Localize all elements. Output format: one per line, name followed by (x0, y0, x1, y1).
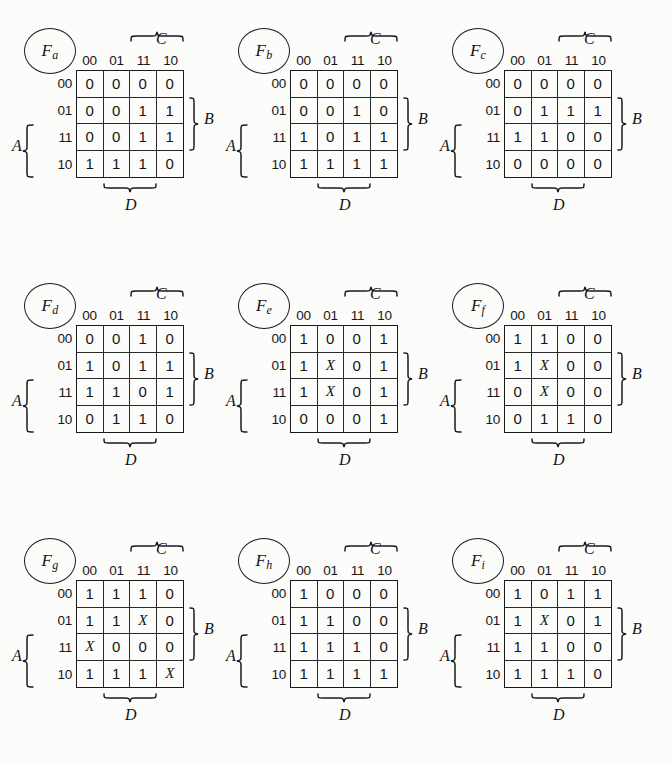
kmap-cell[interactable]: 0 (532, 71, 559, 98)
kmap-cell[interactable]: 0 (505, 98, 532, 125)
kmap-cell[interactable]: 0 (344, 581, 371, 608)
kmap-cell[interactable]: 0 (344, 406, 371, 433)
kmap-cell[interactable]: 0 (585, 151, 612, 178)
kmap-cell[interactable]: 1 (558, 581, 585, 608)
kmap-cell[interactable]: 1 (505, 661, 532, 688)
kmap-cell[interactable]: 1 (104, 581, 131, 608)
kmap-cell[interactable]: 0 (344, 608, 371, 635)
kmap-cell[interactable]: 0 (505, 379, 532, 406)
kmap-cell[interactable]: 1 (505, 581, 532, 608)
kmap-cell[interactable]: 0 (585, 406, 612, 433)
kmap-cell[interactable]: 0 (77, 124, 104, 151)
kmap-cell[interactable]: 1 (104, 151, 131, 178)
kmap-cell[interactable]: X (157, 661, 184, 688)
kmap-cell[interactable]: X (77, 634, 104, 661)
kmap-cell[interactable]: 1 (291, 634, 318, 661)
kmap-cell[interactable]: 0 (104, 71, 131, 98)
kmap-cell[interactable]: 0 (104, 326, 131, 353)
kmap-cell[interactable]: 0 (157, 608, 184, 635)
kmap-cell[interactable]: X (318, 379, 345, 406)
kmap-cell[interactable]: 1 (371, 379, 398, 406)
kmap-cell[interactable]: 1 (77, 661, 104, 688)
kmap-cell[interactable]: 0 (157, 406, 184, 433)
kmap-cell[interactable]: 0 (104, 634, 131, 661)
kmap-cell[interactable]: 0 (318, 326, 345, 353)
kmap-cell[interactable]: 1 (104, 406, 131, 433)
kmap-cell[interactable]: 1 (130, 326, 157, 353)
kmap-cell[interactable]: 1 (505, 608, 532, 635)
kmap-cell[interactable]: 1 (291, 379, 318, 406)
kmap-cell[interactable]: 1 (104, 379, 131, 406)
kmap-cell[interactable]: 1 (130, 151, 157, 178)
kmap-cell[interactable]: 0 (104, 353, 131, 380)
kmap-cell[interactable]: 1 (291, 581, 318, 608)
kmap-cell[interactable]: 1 (532, 406, 559, 433)
kmap-cell[interactable]: 1 (77, 353, 104, 380)
kmap-cell[interactable]: 1 (157, 353, 184, 380)
kmap-cell[interactable]: 0 (344, 379, 371, 406)
kmap-cell[interactable]: 1 (77, 151, 104, 178)
kmap-cell[interactable]: X (130, 608, 157, 635)
kmap-cell[interactable]: 0 (77, 326, 104, 353)
kmap-cell[interactable]: 1 (558, 98, 585, 125)
kmap-cell[interactable]: 0 (371, 71, 398, 98)
kmap-cell[interactable]: 1 (318, 661, 345, 688)
kmap-cell[interactable]: 0 (558, 353, 585, 380)
kmap-cell[interactable]: 1 (130, 98, 157, 125)
kmap-cell[interactable]: 1 (344, 661, 371, 688)
kmap-cell[interactable]: 0 (344, 326, 371, 353)
kmap-cell[interactable]: 1 (104, 608, 131, 635)
kmap-cell[interactable]: X (532, 353, 559, 380)
kmap-cell[interactable]: 0 (558, 326, 585, 353)
kmap-cell[interactable]: 1 (130, 353, 157, 380)
kmap-cell[interactable]: 0 (77, 98, 104, 125)
kmap-cell[interactable]: 1 (130, 406, 157, 433)
kmap-cell[interactable]: 0 (157, 151, 184, 178)
kmap-cell[interactable]: 0 (344, 353, 371, 380)
kmap-cell[interactable]: 1 (130, 581, 157, 608)
kmap-cell[interactable]: 1 (532, 98, 559, 125)
kmap-cell[interactable]: 0 (318, 581, 345, 608)
kmap-cell[interactable]: 0 (318, 71, 345, 98)
kmap-cell[interactable]: 1 (532, 661, 559, 688)
kmap-cell[interactable]: 1 (532, 326, 559, 353)
kmap-cell[interactable]: 1 (291, 661, 318, 688)
kmap-cell[interactable]: 1 (505, 124, 532, 151)
kmap-cell[interactable]: 0 (130, 379, 157, 406)
kmap-cell[interactable]: 0 (585, 326, 612, 353)
kmap-cell[interactable]: 0 (505, 71, 532, 98)
kmap-cell[interactable]: 1 (505, 634, 532, 661)
kmap-cell[interactable]: 1 (157, 124, 184, 151)
kmap-cell[interactable]: 0 (558, 71, 585, 98)
kmap-cell[interactable]: 1 (291, 353, 318, 380)
kmap-cell[interactable]: 0 (130, 634, 157, 661)
kmap-cell[interactable]: 1 (77, 379, 104, 406)
kmap-cell[interactable]: X (318, 353, 345, 380)
kmap-cell[interactable]: 1 (291, 326, 318, 353)
kmap-cell[interactable]: 1 (532, 124, 559, 151)
kmap-cell[interactable]: 1 (291, 151, 318, 178)
kmap-cell[interactable]: 1 (371, 151, 398, 178)
kmap-cell[interactable]: 1 (104, 661, 131, 688)
kmap-cell[interactable]: 1 (318, 634, 345, 661)
kmap-cell[interactable]: 0 (291, 406, 318, 433)
kmap-cell[interactable]: 1 (505, 326, 532, 353)
kmap-cell[interactable]: 1 (371, 661, 398, 688)
kmap-cell[interactable]: 1 (371, 406, 398, 433)
kmap-cell[interactable]: 0 (371, 608, 398, 635)
kmap-cell[interactable]: 0 (585, 661, 612, 688)
kmap-cell[interactable]: 0 (532, 581, 559, 608)
kmap-cell[interactable]: 1 (344, 98, 371, 125)
kmap-cell[interactable]: 1 (130, 661, 157, 688)
kmap-cell[interactable]: 0 (505, 406, 532, 433)
kmap-cell[interactable]: 1 (558, 406, 585, 433)
kmap-cell[interactable]: 1 (344, 151, 371, 178)
kmap-cell[interactable]: 0 (130, 71, 157, 98)
kmap-cell[interactable]: X (532, 608, 559, 635)
kmap-cell[interactable]: 1 (291, 608, 318, 635)
kmap-cell[interactable]: 1 (344, 634, 371, 661)
kmap-cell[interactable]: 1 (371, 326, 398, 353)
kmap-cell[interactable]: 1 (318, 151, 345, 178)
kmap-cell[interactable]: 0 (585, 124, 612, 151)
kmap-cell[interactable]: 0 (157, 634, 184, 661)
